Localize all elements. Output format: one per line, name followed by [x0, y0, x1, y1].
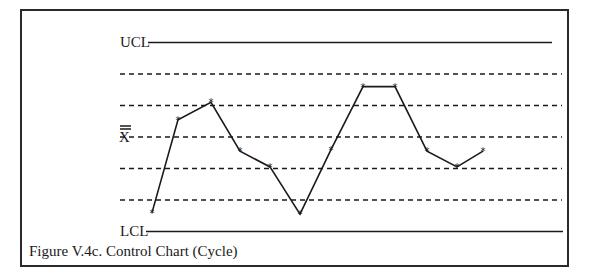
control-chart-plot: ************ [0, 0, 591, 277]
figure-caption: Figure V.4c. Control Chart (Cycle) [29, 243, 238, 260]
reference-lines [120, 43, 563, 232]
asterisk-marker-icon: * [268, 162, 273, 173]
asterisk-marker-icon: * [209, 97, 214, 108]
asterisk-marker-icon: * [455, 162, 460, 173]
asterisk-marker-icon: * [150, 208, 155, 219]
asterisk-marker-icon: * [238, 146, 243, 157]
asterisk-marker-icon: * [176, 115, 181, 126]
asterisk-marker-icon: * [298, 209, 303, 220]
lcl-label: LCL [120, 224, 148, 239]
asterisk-marker-icon: * [481, 146, 486, 157]
asterisk-marker-icon: * [361, 82, 366, 93]
ucl-label: UCL [120, 35, 150, 50]
asterisk-marker-icon: * [329, 145, 334, 156]
x-letter: X [119, 130, 130, 145]
asterisk-marker-icon: * [393, 82, 398, 93]
x-double-bar-label: X [119, 124, 133, 146]
asterisk-marker-icon: * [425, 146, 430, 157]
